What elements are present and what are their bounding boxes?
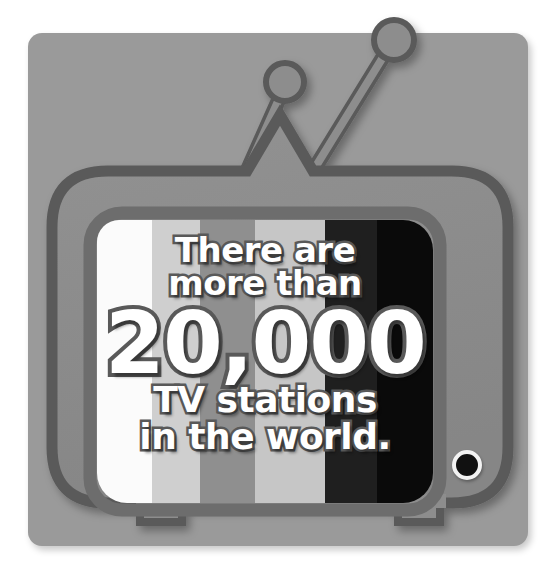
tv-screen: [97, 220, 433, 503]
bar-light-gray: [152, 220, 200, 503]
bar-light-gray-2: [255, 220, 325, 503]
antenna-right-tip-icon: [374, 20, 414, 60]
bar-white: [97, 220, 152, 503]
bar-black: [377, 220, 433, 503]
bar-near-black: [325, 220, 377, 503]
tuning-knob[interactable]: [452, 450, 482, 480]
antenna-left-tip-icon: [266, 63, 304, 101]
bar-mid-gray: [200, 220, 255, 503]
poster-canvas: There are more than 20,000 TV stations i…: [0, 0, 557, 584]
